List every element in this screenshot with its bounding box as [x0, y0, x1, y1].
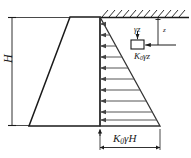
- pressure-distribution: [100, 17, 160, 126]
- diagram-canvas: [0, 0, 191, 158]
- base-dim-arrowhead-right: [156, 145, 160, 149]
- soil-element-box: [131, 40, 144, 49]
- wall-outline: [29, 17, 100, 126]
- ground-surface-group: [100, 10, 189, 18]
- pressure-triangle-outline: [100, 17, 160, 126]
- base-dim-arrowhead-left: [100, 145, 104, 149]
- label-element-lateral-post: γz: [143, 51, 150, 61]
- label-element-vertical-pressure: γz: [134, 26, 140, 34]
- label-base-pressure: K0γH: [113, 133, 136, 145]
- label-depth: z: [163, 27, 166, 34]
- label-base-pressure-post: γH: [124, 132, 136, 144]
- depth-dimension: [156, 18, 161, 45]
- earth-pressure-diagram: H K0γH K0γz γz z: [0, 0, 191, 158]
- label-wall-height: H: [2, 54, 14, 63]
- ground-hatching: [102, 10, 185, 17]
- label-element-lateral-pressure: K0γz: [134, 52, 150, 61]
- retaining-wall: [29, 17, 100, 126]
- toe-arrowhead: [98, 130, 102, 134]
